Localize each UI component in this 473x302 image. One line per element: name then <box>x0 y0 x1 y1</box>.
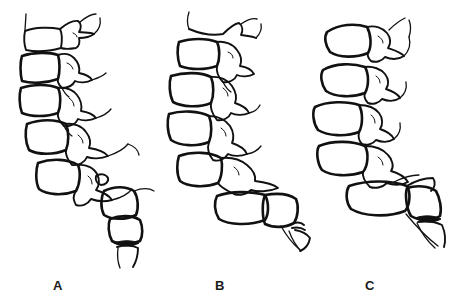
posterior-elements-b-2 <box>211 77 249 120</box>
facet-a-1 <box>94 18 100 34</box>
pedicle-mark-b-4 <box>234 167 239 175</box>
articular-process-a-4 <box>128 144 139 155</box>
posterior-elements-b-1 <box>217 42 254 82</box>
pedicle-mark-a-1 <box>73 33 77 37</box>
vertebra-body-b-3 <box>168 112 212 146</box>
vertebra-body-a-4 <box>26 120 69 154</box>
vertebra-body-c-4 <box>317 142 367 175</box>
spine-illustration-a <box>0 0 160 270</box>
posterior-elements-c-2 <box>365 67 400 104</box>
spinous-tip-a <box>25 14 26 30</box>
vertebra-body-b-2 <box>170 73 214 106</box>
facet-c-3 <box>394 123 400 139</box>
spinous-process-b-1 <box>241 19 257 24</box>
panel-b: B <box>155 0 315 302</box>
vertebra-body-a-3 <box>20 85 61 116</box>
pedicle-mark-c-1 <box>378 36 383 43</box>
pedicle-mark-b-1 <box>228 52 233 58</box>
pedicle-mark-b-3 <box>221 128 226 136</box>
transverse-process-b-3 <box>247 146 261 154</box>
vertebra-body-b-1 <box>178 39 220 69</box>
spine-illustration-b <box>155 0 315 270</box>
figure-root: A <box>0 0 473 302</box>
transverse-process-b-2 <box>249 105 260 113</box>
panel-label-c: C <box>350 279 390 292</box>
transverse-process-a-5 <box>112 189 132 200</box>
spinous-process-c-1 <box>389 18 405 30</box>
posterior-elements-c-1 <box>367 26 404 61</box>
superior-arc-b-1 <box>189 23 256 38</box>
vertebra-body-a-1 <box>24 28 61 51</box>
coccyx-a <box>117 246 138 267</box>
pedicle-mark-a-2 <box>67 63 73 69</box>
sacrum-segment-a-1 <box>101 187 137 219</box>
facet-upper-c-1 <box>409 20 411 37</box>
spine-illustration-c <box>305 0 473 270</box>
transverse-process-a-4 <box>108 144 128 156</box>
sacrum-segment-c-2 <box>406 186 441 219</box>
vertebra-body-c-2 <box>321 64 368 96</box>
posterior-elements-b-4 <box>218 158 278 195</box>
posterior-elements-a-1 <box>60 21 94 49</box>
facet-c-1 <box>404 37 410 56</box>
coccyx-anterior-a <box>118 248 120 268</box>
panel-a: A <box>0 0 160 302</box>
vertebra-body-a-2 <box>21 53 60 83</box>
pedicle-mark-c-4 <box>378 157 383 165</box>
vertebra-body-b-4 <box>177 153 222 186</box>
transverse-process-a-3 <box>96 109 111 118</box>
transverse-process-a-2 <box>92 73 106 80</box>
vertebra-body-b-5 <box>215 192 268 224</box>
coccyx-c <box>418 222 445 247</box>
pedicle-mark-a-4 <box>78 135 83 143</box>
panel-c: C <box>305 0 473 302</box>
panel-label-a: A <box>38 279 78 292</box>
spinous-process-a-1 <box>80 14 96 22</box>
sacrum-segment-a-2 <box>109 216 143 244</box>
pedicle-mark-a-3 <box>69 98 74 106</box>
pedicle-mark-c-3 <box>371 115 375 123</box>
posterior-elements-a-4 <box>66 124 108 165</box>
sacral-ala-a <box>134 189 154 191</box>
vertebra-body-c-1 <box>325 25 370 57</box>
facet-joint-a <box>96 174 108 185</box>
facet-c-2 <box>400 82 406 98</box>
vertebra-body-c-3 <box>313 102 362 135</box>
sacrococcygeal-joint-b <box>294 223 304 225</box>
facet-b-1 <box>256 24 261 38</box>
pedicle-mark-c-2 <box>376 76 380 83</box>
posterior-elements-a-3 <box>58 88 96 126</box>
spinous-tip-b <box>188 12 190 29</box>
pedicle-mark-a-5 <box>88 176 92 184</box>
panel-label-b: B <box>200 279 240 292</box>
sacrococcygeal-joint-line-b <box>292 228 305 230</box>
posterior-elements-c-3 <box>359 105 394 145</box>
posterior-elements-a-2 <box>58 54 92 88</box>
